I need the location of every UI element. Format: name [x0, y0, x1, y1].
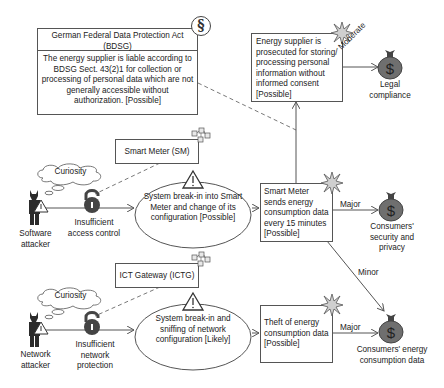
- vulnerability-label: Insufficient network protection: [66, 340, 124, 372]
- vulnerability-label: Insufficient access control: [62, 218, 126, 239]
- money-bag-icon: $: [378, 192, 404, 222]
- legal-norm-box: German Federal Data Protection Act (BDSG…: [37, 28, 198, 115]
- money-bag-icon: $: [378, 314, 404, 344]
- warning-icon: [183, 171, 203, 188]
- attacker-icon: [25, 190, 49, 226]
- motivation-label: Curiosity: [43, 291, 98, 302]
- svg-text:$: $: [386, 60, 395, 77]
- threat-text: System break-in and sniffing of network …: [142, 314, 244, 346]
- warning-icon: [183, 293, 203, 310]
- attacker-label: Software attacker: [8, 229, 63, 250]
- svg-text:$: $: [387, 324, 396, 341]
- money-bag-icon: $: [377, 50, 403, 80]
- consequence-label-minor: Minor: [358, 268, 378, 279]
- asset-label-security: Consumers' security and privacy: [364, 222, 420, 254]
- attacker-icon: [25, 312, 49, 348]
- svg-text:$: $: [387, 202, 396, 219]
- component-network-icon: [190, 251, 212, 269]
- attacker-label: Network attacker: [8, 350, 63, 371]
- asset-label-legal: Legal compliance: [360, 80, 420, 101]
- incident-star-icon: [320, 171, 344, 195]
- consequence-label-major: Major: [340, 200, 360, 211]
- unlocked-padlock-icon: [82, 188, 102, 214]
- component-network-icon: [190, 127, 212, 145]
- motivation-label: Curiosity: [43, 167, 98, 178]
- consequence-label-major: Major: [340, 323, 360, 334]
- unlocked-padlock-icon: [82, 310, 102, 336]
- paragraph-icon: §: [191, 16, 211, 36]
- component-smart-meter: Smart Meter (SM): [115, 139, 199, 164]
- component-ict-gateway: ICT Gateway (ICTG): [115, 263, 199, 288]
- legal-norm-body: The energy supplier is liable according …: [38, 51, 197, 110]
- legal-norm-title: German Federal Data Protection Act (BDSG…: [38, 29, 197, 51]
- asset-label-data: Consumers' energy consumption data: [352, 345, 432, 366]
- threat-text: System break-in into Smart Meter and cha…: [137, 192, 249, 224]
- incident-star-icon: [320, 293, 344, 317]
